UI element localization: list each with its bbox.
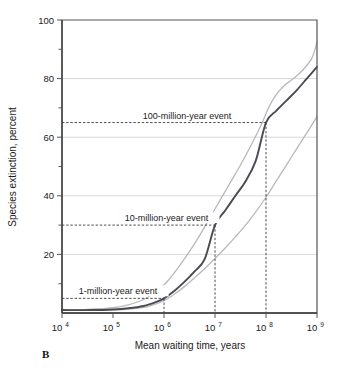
y-tick-label-80: 80: [43, 73, 54, 84]
svg-text:6: 6: [167, 321, 171, 328]
svg-text:10: 10: [154, 322, 165, 333]
svg-text:5: 5: [116, 321, 120, 328]
svg-text:10: 10: [205, 322, 216, 333]
svg-text:4: 4: [65, 321, 69, 328]
x-axis-title: Mean waiting time, years: [135, 340, 246, 351]
svg-text:8: 8: [269, 321, 273, 328]
svg-text:10: 10: [52, 322, 63, 333]
event-100my-label: 100-million-year event: [143, 111, 232, 121]
svg-text:7: 7: [218, 321, 222, 328]
y-axis-title: Species extinction, percent: [7, 107, 18, 227]
svg-text:10: 10: [103, 322, 114, 333]
svg-text:10: 10: [256, 322, 267, 333]
event-10my-label: 10-million-year event: [125, 213, 209, 223]
svg-text:10: 10: [307, 322, 318, 333]
extinction-waiting-time-chart: 100-million-year event10-million-year ev…: [0, 0, 346, 381]
panel-label: B: [42, 348, 50, 360]
y-tick-label-100: 100: [38, 15, 54, 26]
event-1my-label: 1-million-year event: [79, 286, 158, 296]
y-tick-label-60: 60: [43, 132, 54, 143]
y-tick-label-20: 20: [43, 249, 54, 260]
y-tick-label-40: 40: [43, 190, 54, 201]
svg-text:9: 9: [320, 321, 324, 328]
